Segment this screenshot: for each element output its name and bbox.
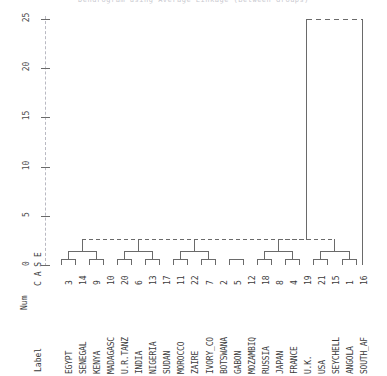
leaf-case-label: GABON <box>234 351 243 374</box>
leaf-case-label: U.K. <box>304 356 313 374</box>
leaf-case-number: 14 <box>79 275 88 285</box>
leaf-case-label: NIGERIA <box>149 342 158 374</box>
leaf-case-number: 22 <box>191 275 200 285</box>
leaf-case-number: 18 <box>262 275 271 285</box>
leaf-case-number: 16 <box>360 275 369 285</box>
leaf-case-number: 5 <box>234 280 243 285</box>
leaf-case-number: 4 <box>290 280 299 285</box>
leaf-case-number: 10 <box>107 275 116 285</box>
leaf-case-number: 1 <box>346 280 355 285</box>
leaf-case-label: SUDAN <box>163 351 172 374</box>
leaf-case-number: 11 <box>177 275 186 285</box>
leaf-case-label: SOUTH_AF <box>360 337 369 374</box>
leaf-case-label: BOTSWANA <box>220 337 229 374</box>
dendrogram-tree <box>0 0 387 376</box>
leaf-case-number: 13 <box>149 275 158 285</box>
leaf-case-label: U.R.TANZ <box>121 337 130 374</box>
leaf-case-number: 21 <box>318 275 327 285</box>
leaf-case-label: KENYA <box>93 351 102 374</box>
leaf-case-number: 17 <box>163 275 172 285</box>
leaf-case-number: 7 <box>206 280 215 285</box>
leaf-case-number: 15 <box>332 275 341 285</box>
leaf-case-label: MOZAMBIQ <box>248 337 257 374</box>
leaf-case-number: 9 <box>93 280 102 285</box>
num-column-header: Num <box>20 296 29 310</box>
leaf-case-number: 6 <box>135 280 144 285</box>
leaf-case-label: EGYPT <box>65 351 74 374</box>
leaf-case-number: 2 <box>220 280 229 285</box>
label-column-header: Label <box>34 348 43 372</box>
leaf-case-number: 20 <box>121 275 130 285</box>
leaf-case-label: MOROCCO <box>177 342 186 374</box>
leaf-case-number: 8 <box>276 280 285 285</box>
leaf-case-label: FRANCE <box>290 346 299 374</box>
leaf-case-label: USA <box>318 360 327 374</box>
leaf-case-number: 12 <box>248 275 257 285</box>
leaf-case-label: ANGOLA <box>346 346 355 374</box>
leaf-case-label: IVORY_CO <box>206 337 215 374</box>
leaf-case-label: SEYCHELL <box>332 337 341 374</box>
case-header-text: C A S E <box>34 252 43 286</box>
leaf-case-label: SENEGAL <box>79 342 88 374</box>
leaf-case-label: JAPAN <box>276 351 285 374</box>
leaf-case-number: 19 <box>304 275 313 285</box>
leaf-case-label: ZAIRE <box>191 351 200 374</box>
leaf-case-label: RUSSIA <box>262 346 271 374</box>
leaf-case-label: INDIA <box>135 351 144 374</box>
leaf-case-label: MADAGASC <box>107 337 116 374</box>
leaf-case-number: 3 <box>65 280 74 285</box>
dendrogram-figure: Dendrogram using Average Linkage (Betwee… <box>0 0 387 376</box>
